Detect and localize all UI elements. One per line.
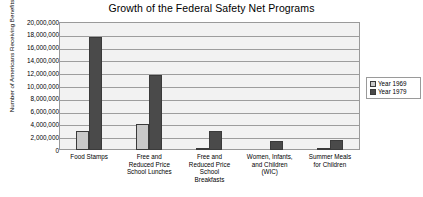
category-label-line: School [179, 168, 239, 176]
x-axis-category-label: Free andReduced PriceSchoolBreakfasts [179, 153, 239, 183]
bar [149, 75, 162, 150]
bar-cluster [240, 22, 300, 150]
bars-layer [59, 22, 360, 150]
y-axis-tick-label: 16,000,000 [1, 44, 59, 51]
bar [76, 131, 89, 150]
x-axis-category-labels: Food StampsFree andReduced PriceSchool L… [59, 153, 360, 197]
legend-item: Year 1969 [370, 80, 418, 87]
chart-legend: Year 1969Year 1979 [366, 77, 421, 99]
legend-item-label: Year 1979 [378, 88, 406, 95]
category-label-line: Reduced Price [179, 161, 239, 169]
category-label-line: Women, Infants, [240, 153, 300, 161]
bar [136, 124, 149, 150]
category-label-line: Breakfasts [179, 176, 239, 184]
bar-chart: Growth of the Federal Safety Net Program… [0, 0, 423, 197]
legend-swatch-icon [370, 81, 376, 87]
bar [196, 148, 209, 150]
legend-item-label: Year 1969 [378, 80, 406, 87]
x-axis-category-label: Free andReduced PriceSchool Lunches [119, 153, 179, 176]
y-axis-tick-label: 12,000,000 [1, 70, 59, 77]
y-axis-tick-label: 18,000,000 [1, 31, 59, 38]
y-axis-tick-label: 8,000,000 [1, 95, 59, 102]
category-label-line: School Lunches [119, 168, 179, 176]
bar [330, 140, 343, 150]
y-axis-tick-label: 2,000,000 [1, 134, 59, 141]
category-label-line: Free and [119, 153, 179, 161]
category-label-line: (WIC) [240, 168, 300, 176]
bar-cluster [59, 22, 119, 150]
category-label-line: and Children [240, 161, 300, 169]
legend-swatch-icon [370, 89, 376, 95]
y-axis-tick-label: 4,000,000 [1, 121, 59, 128]
x-axis-category-label: Summer Mealsfor Children [300, 153, 360, 168]
category-label-line: Reduced Price [119, 161, 179, 169]
chart-title: Growth of the Federal Safety Net Program… [0, 2, 423, 15]
category-label-line: Free and [179, 153, 239, 161]
y-axis-tick-label: 14,000,000 [1, 57, 59, 64]
category-label-line: Food Stamps [59, 153, 119, 161]
y-axis-tick-label: 20,000,000 [1, 19, 59, 26]
legend-item: Year 1979 [370, 88, 418, 95]
y-axis-tick-label: 10,000,000 [1, 83, 59, 90]
bar [270, 141, 283, 150]
bar-cluster [119, 22, 179, 150]
category-label-line: for Children [300, 161, 360, 169]
bar-cluster [179, 22, 239, 150]
bar [89, 37, 102, 150]
x-axis-category-label: Food Stamps [59, 153, 119, 161]
y-axis-tick-label: 0 [1, 147, 59, 154]
category-label-line: Summer Meals [300, 153, 360, 161]
y-axis-tick-label: 6,000,000 [1, 108, 59, 115]
bar-cluster [300, 22, 360, 150]
x-axis-category-label: Women, Infants,and Children(WIC) [240, 153, 300, 176]
bar [317, 148, 330, 150]
bar [209, 131, 222, 150]
